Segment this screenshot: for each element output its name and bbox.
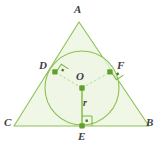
point-marker-o — [79, 85, 84, 90]
label-vertex-a: A — [74, 4, 81, 15]
label-radius-r: r — [83, 98, 87, 108]
label-vertex-b: B — [146, 117, 153, 128]
point-marker-d — [52, 69, 57, 74]
label-point-e: E — [78, 131, 85, 142]
right-angle-dot-e — [86, 120, 88, 122]
label-vertex-c: C — [4, 117, 11, 128]
geometry-diagram-canvas: A B C D F E O r — [0, 0, 163, 151]
point-marker-f — [107, 69, 112, 74]
label-point-f: F — [117, 60, 124, 71]
label-point-d: D — [39, 60, 47, 71]
label-center-o: O — [76, 71, 84, 82]
point-marker-e — [79, 123, 84, 128]
